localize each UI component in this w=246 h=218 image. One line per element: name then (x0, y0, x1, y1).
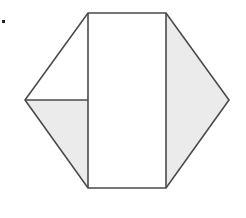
marker-dot (2, 20, 5, 23)
shaded-right-triangle (166, 13, 229, 188)
hexagon-diagram (0, 0, 246, 218)
